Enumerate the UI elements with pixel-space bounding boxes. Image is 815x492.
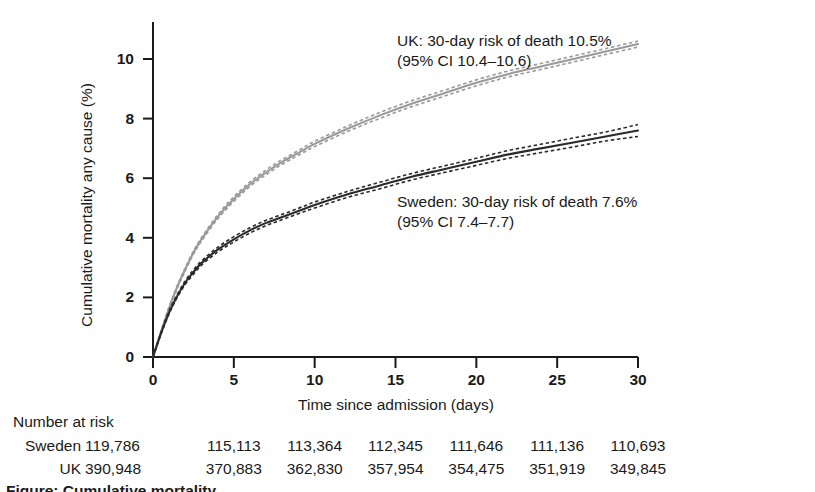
series-line-sweden: [153, 131, 638, 357]
table-row: UK 390,948370,883362,830357,954354,47535…: [0, 458, 815, 482]
risk-cell: 351,919: [511, 458, 603, 480]
risk-cell: 349,845: [592, 458, 684, 480]
risk-cell: 115,113: [188, 435, 280, 457]
ci-band-sweden-upper: [153, 125, 638, 357]
x-axis-tick-label: 5: [214, 372, 254, 388]
risk-row-label-uk: UK: [0, 458, 81, 480]
risk-cell: 110,693: [592, 435, 684, 457]
annotation-sweden: Sweden: 30-day risk of death 7.6% (95% C…: [397, 192, 637, 233]
ci-band-sweden-lower: [153, 136, 638, 357]
x-axis-tick-label: 10: [295, 372, 335, 388]
y-axis-tick-label: 6: [104, 170, 134, 186]
risk-cell: 113,364: [269, 435, 361, 457]
figure-root: 0246810 051015202530 Cumulative mortalit…: [0, 0, 815, 492]
risk-cell: 112,345: [350, 435, 442, 457]
risk-cell: 111,646: [430, 435, 522, 457]
risk-cell: 362,830: [269, 458, 361, 480]
risk-cell: 111,136: [511, 435, 603, 457]
chart-axes: [153, 22, 638, 357]
x-axis-tick-label: 0: [133, 372, 173, 388]
number-at-risk-title: Number at risk: [13, 411, 114, 433]
x-axis-tick-label: 30: [618, 372, 658, 388]
x-axis-tick-label: 25: [537, 372, 577, 388]
x-axis-ticks: [153, 357, 638, 368]
annotation-sweden-line2: (95% CI 7.4–7.7): [397, 212, 637, 232]
y-axis-tick-label: 0: [104, 349, 134, 365]
risk-row-label-sweden: Sweden: [0, 435, 81, 457]
figure-caption: Figure: Cumulative mortality: [6, 482, 806, 492]
table-row: Sweden 119,786115,113113,364112,345111,6…: [0, 435, 815, 459]
y-axis-tick-label: 4: [104, 230, 134, 246]
risk-cell: 354,475: [430, 458, 522, 480]
chart-plot-area: [0, 0, 815, 492]
annotation-uk: UK: 30-day risk of death 10.5% (95% CI 1…: [397, 31, 612, 72]
risk-cell: 357,954: [350, 458, 442, 480]
risk-cell: 119,786: [85, 435, 140, 457]
risk-cell: 390,948: [85, 458, 141, 480]
annotation-sweden-line1: Sweden: 30-day risk of death 7.6%: [397, 192, 637, 212]
risk-cell: 370,883: [188, 458, 280, 480]
x-axis-title: Time since admission (days): [153, 396, 639, 414]
y-axis-tick-label: 10: [104, 51, 134, 67]
annotation-uk-line2: (95% CI 10.4–10.6): [397, 51, 612, 71]
y-axis-tick-label: 8: [104, 111, 134, 127]
y-axis-ticks: [143, 59, 153, 357]
annotation-uk-line1: UK: 30-day risk of death 10.5%: [397, 31, 612, 51]
y-axis-title: Cumulative mortality any cause (%): [78, 60, 96, 350]
x-axis-tick-label: 15: [376, 372, 416, 388]
x-axis-tick-label: 20: [456, 372, 496, 388]
y-axis-tick-label: 2: [104, 289, 134, 305]
